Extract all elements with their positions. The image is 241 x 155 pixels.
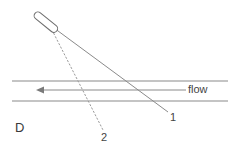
panel-label: D <box>15 121 24 134</box>
figure-panel-d: flow 1 2 D <box>0 0 241 155</box>
diagram-canvas <box>0 0 241 155</box>
flow-label: flow <box>188 84 208 95</box>
trajectory-line-1 <box>54 28 168 112</box>
flow-arrowhead-icon <box>36 87 44 94</box>
trajectory-1-label: 1 <box>170 112 176 123</box>
probe-body-outline <box>33 10 60 34</box>
trajectory-2-label: 2 <box>101 132 107 143</box>
probe-capsule <box>33 10 60 34</box>
